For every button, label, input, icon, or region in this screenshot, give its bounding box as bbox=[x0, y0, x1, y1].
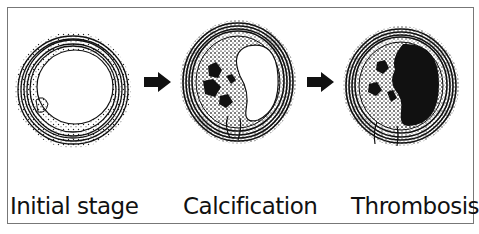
artery-initial-stage-illustration bbox=[12, 28, 134, 153]
stage-label-calcification: Calcification bbox=[183, 193, 317, 219]
artery-calcification-illustration bbox=[178, 16, 298, 148]
stage-label-initial: Initial stage bbox=[10, 193, 138, 219]
arrow-right-icon bbox=[307, 72, 334, 92]
arrow-right-icon bbox=[144, 72, 171, 92]
artery-thrombosis-illustration bbox=[341, 22, 461, 152]
stage-label-thrombosis: Thrombosis bbox=[351, 193, 479, 219]
